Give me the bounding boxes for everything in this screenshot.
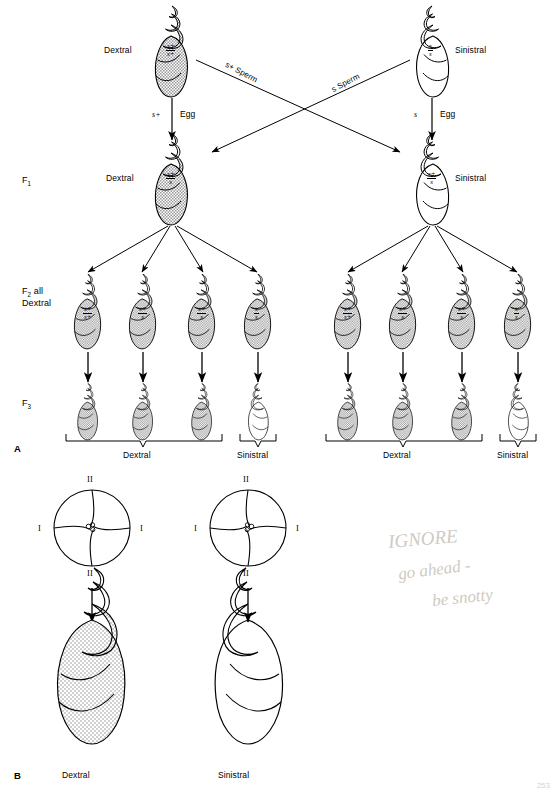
genotype-f2-right-2: s+s — [398, 306, 407, 321]
generation-label-f3: F3 — [22, 398, 31, 410]
genotype-f2-left-1: s+s+ — [83, 306, 92, 321]
handwritten-note-line1: IGNORE — [387, 525, 458, 553]
genotype-parent-left: s+ s+ — [166, 43, 175, 58]
embryo-right-label-top: II — [243, 474, 249, 484]
handwritten-note-line2: go ahead - — [397, 556, 472, 585]
adult-right-caption: Sinistral — [218, 770, 249, 780]
genotype-f2-left-3: s+s — [197, 306, 206, 321]
panel-a-label: A — [14, 443, 21, 454]
parent-left-phenotype: Dextral — [104, 45, 132, 55]
genotype-f1-left: s+ s — [166, 171, 175, 186]
embryo-left-label-bottom: II — [87, 568, 93, 578]
page-number: 253 — [537, 781, 550, 790]
genotype-f2-left-2: s+s — [138, 306, 147, 321]
text-layer: Dextral Sinistral Dextral Sinistral F1 F… — [0, 0, 556, 792]
embryo-left-label-left: I — [38, 523, 41, 533]
generation-label-f2: F2 F2 allallDextral — [22, 286, 51, 308]
f3-bracket-left-sinistral: Sinistral — [237, 450, 268, 460]
genotype-f2-right-3: s+s — [457, 306, 466, 321]
generation-label-f1: F1 — [22, 175, 31, 187]
genotype-f1-right: s+ s — [427, 171, 436, 186]
embryo-right-label-left: I — [194, 523, 197, 533]
genotype-parent-right: s s — [428, 43, 433, 58]
genotype-f2-right-1: s+s+ — [343, 306, 352, 321]
egg-right-label: Egg — [440, 109, 455, 119]
f1-left-phenotype: Dextral — [106, 173, 134, 183]
embryo-right-label-bottom: II — [243, 568, 249, 578]
egg-right-allele: s — [414, 110, 417, 119]
parent-right-phenotype: Sinistral — [455, 45, 486, 55]
f1-right-phenotype: Sinistral — [455, 173, 486, 183]
f3-bracket-left-dextral: Dextral — [123, 450, 151, 460]
genotype-f2-left-4: ss — [254, 306, 259, 321]
genotype-f2-right-4: ss — [514, 306, 519, 321]
embryo-left-label-top: II — [87, 474, 93, 484]
panel-b-label: B — [14, 770, 21, 781]
f3-bracket-right-sinistral: Sinistral — [497, 450, 528, 460]
f3-bracket-right-dextral: Dextral — [383, 450, 411, 460]
adult-left-caption: Dextral — [62, 770, 90, 780]
sperm-left-label: s+ Sperm — [224, 60, 259, 85]
embryo-right-label-right: I — [296, 523, 299, 533]
handwritten-note-line3: be snotty — [431, 585, 494, 611]
embryo-left-label-right: I — [140, 523, 143, 533]
sperm-right-label: s Sperm — [330, 72, 361, 94]
egg-left-allele: s+ — [152, 110, 161, 119]
egg-left-label: Egg — [180, 109, 195, 119]
